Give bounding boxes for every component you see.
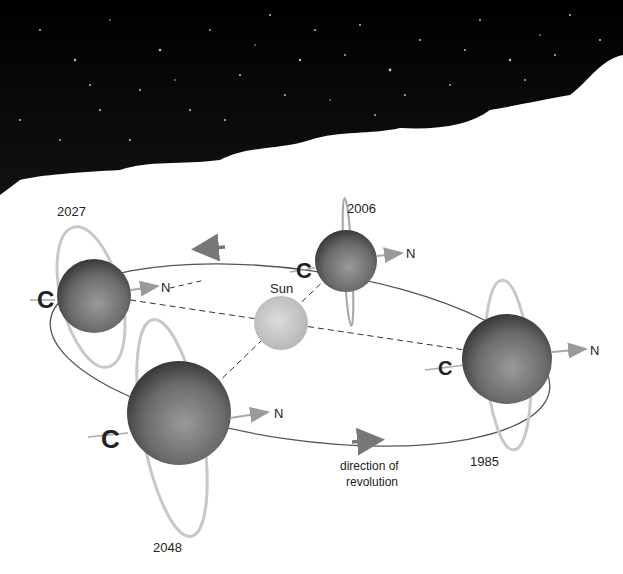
direction-label-line2: revolution xyxy=(346,475,398,489)
north-arrow-1985 xyxy=(552,349,586,352)
planet-2006: N 2006 C xyxy=(290,198,415,326)
sun-label: Sun xyxy=(270,281,293,296)
planet-2048: N 2048 C xyxy=(88,314,283,555)
year-label-2006: 2006 xyxy=(347,201,376,216)
direction-arrow-top xyxy=(198,247,225,249)
rotation-icon: C xyxy=(296,258,312,283)
planet-1985: N 1985 C xyxy=(425,279,599,469)
north-label: N xyxy=(274,406,283,421)
rotation-icon: C xyxy=(101,424,120,454)
north-label: N xyxy=(406,246,415,261)
rotation-icon: C xyxy=(37,286,54,313)
north-arrow-2027 xyxy=(131,286,158,290)
direction-arrow-bottom xyxy=(352,440,378,442)
north-arrow-2006 xyxy=(377,253,402,256)
north-label: N xyxy=(590,343,599,358)
north-label: N xyxy=(161,280,170,295)
sun: Sun xyxy=(254,281,308,350)
planet-2027: N 2027 C xyxy=(30,204,170,374)
direction-label-line1: direction of xyxy=(340,459,399,473)
rotation-icon: C xyxy=(438,357,452,379)
year-label-2027: 2027 xyxy=(57,204,86,219)
uranus-orbit-diagram: Sun N 2027 C N 2006 C N 1985 C N 204 xyxy=(0,0,623,574)
year-label-2048: 2048 xyxy=(153,540,182,555)
starfield-background xyxy=(0,0,623,195)
year-label-1985: 1985 xyxy=(470,454,499,469)
north-arrow-2048 xyxy=(230,412,268,418)
